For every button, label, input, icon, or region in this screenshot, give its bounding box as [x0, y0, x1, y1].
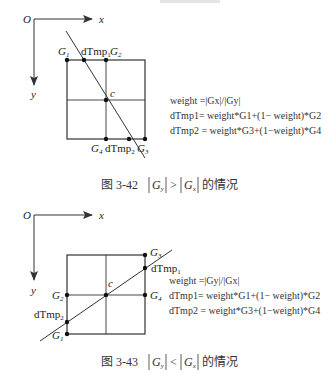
- caption-number: 图 3-43: [101, 355, 138, 369]
- x-axis-label: x: [98, 13, 104, 25]
- caption-relation: <: [170, 355, 177, 369]
- label-dTmp2: dTmp2: [105, 142, 135, 156]
- label-dTmp1: dTmp1: [151, 262, 181, 276]
- origin-label: O: [23, 209, 31, 221]
- equation-dTmp2: dTmp2 = weight*G3+(1−weight)*G4: [170, 125, 321, 137]
- label-G2: G2: [52, 289, 64, 303]
- label-G2: G2: [110, 45, 122, 59]
- equation-weight: weight =|Gx|/|Gy|: [170, 95, 241, 106]
- label-G3: G3: [137, 142, 149, 156]
- caption-relation: >: [170, 178, 177, 192]
- caption-gy: Gy: [152, 178, 165, 193]
- caption-gx: Gx: [184, 178, 197, 193]
- axes: O x y: [23, 209, 104, 296]
- equation-dTmp1: dTmp1= weight*G1+(1− weight)*G2: [169, 290, 320, 302]
- label-G4: G4: [150, 289, 162, 303]
- y-axis-label: y: [30, 88, 36, 100]
- y-axis-label: y: [30, 284, 36, 296]
- caption-gy: Gy: [152, 355, 165, 370]
- caption-3-42: 图 3-42 Gy > Gx 的情况: [101, 177, 238, 193]
- label-dTmp2: dTmp2: [34, 308, 64, 322]
- caption-number: 图 3-42: [101, 178, 138, 192]
- label-G4: G4: [91, 142, 103, 156]
- equation-weight: weight =|Gy|/|Gx|: [169, 275, 240, 286]
- top-cropped-text: [160, 0, 220, 3]
- figure-3-42: O x y G1 dTmp1 G2 c G4 dTmp2 G3 weight =…: [23, 13, 321, 193]
- label-center-c: c: [108, 277, 113, 289]
- origin-label: O: [23, 13, 31, 25]
- x-axis-label: x: [98, 209, 104, 221]
- caption-3-43: 图 3-43 Gy < Gx 的情况: [101, 354, 238, 370]
- caption-suffix: 的情况: [202, 354, 238, 369]
- equation-dTmp1: dTmp1= weight*G1+(1− weight)*G2: [170, 110, 321, 122]
- label-G1: G1: [58, 45, 69, 59]
- caption-suffix: 的情况: [202, 177, 238, 192]
- label-center-c: c: [110, 87, 115, 99]
- caption-gx: Gx: [184, 355, 197, 370]
- equation-dTmp2: dTmp2 = weight*G3+(1−weight)*G4: [169, 305, 320, 317]
- label-G3: G3: [150, 246, 162, 260]
- equations: weight =|Gx|/|Gy| dTmp1= weight*G1+(1− w…: [170, 95, 321, 137]
- label-dTmp1: dTmp1: [81, 45, 111, 59]
- figure-3-43: O x y G3 dTmp1 c G2 G4 dTmp2 G1 weight =…: [23, 209, 320, 370]
- label-G1: G1: [52, 329, 63, 343]
- equations: weight =|Gy|/|Gx| dTmp1= weight*G1+(1− w…: [169, 275, 320, 317]
